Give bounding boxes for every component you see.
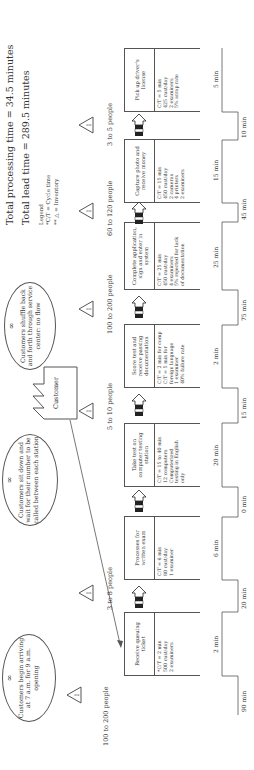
wait-time-3: 0 min — [240, 496, 247, 513]
wait-time-7: 10 min — [240, 117, 247, 138]
wait-time-1: 90 min — [240, 691, 247, 712]
value-stream-map: Total processing time = 34.5 minutes Tot… — [0, 0, 254, 770]
wait-time-5: 75 min — [240, 300, 247, 321]
timeline-ladder — [0, 0, 254, 770]
process-time-2: 6 min — [212, 540, 219, 557]
process-time-4: 2 min — [212, 348, 219, 365]
wait-time-4: 15 min — [240, 398, 247, 419]
wait-time-6: 45 min — [240, 199, 247, 220]
process-time-6: 15 min — [212, 160, 219, 181]
process-time-7: 5 min — [212, 71, 219, 88]
wait-time-2: 20 min — [240, 588, 247, 609]
process-time-5: 25 min — [212, 247, 219, 268]
process-time-1: 2 min — [212, 636, 219, 653]
process-time-3: 20 min — [212, 445, 219, 466]
